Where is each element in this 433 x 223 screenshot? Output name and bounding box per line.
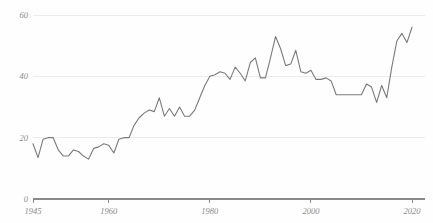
y-tick-label: 60	[20, 10, 29, 20]
y-tick-label: 20	[20, 133, 29, 143]
y-tick-label: 0	[24, 194, 29, 204]
y-tick-labels: 0204060	[20, 10, 29, 204]
data-line	[33, 27, 412, 159]
gridlines	[33, 15, 425, 138]
x-tick-label: 2020	[404, 206, 422, 216]
line-chart: 0204060 19451960198020002020	[0, 0, 433, 223]
x-axis-group	[33, 199, 425, 203]
x-tick-label: 2000	[302, 206, 320, 216]
x-tick-labels: 19451960198020002020	[25, 206, 422, 216]
x-tick-label: 1945	[25, 206, 42, 216]
x-tick-label: 1980	[201, 206, 219, 216]
x-tick-label: 1960	[100, 206, 118, 216]
y-tick-label: 40	[20, 71, 29, 81]
data-series-group	[33, 27, 412, 159]
chart-canvas: 0204060 19451960198020002020	[0, 0, 433, 223]
